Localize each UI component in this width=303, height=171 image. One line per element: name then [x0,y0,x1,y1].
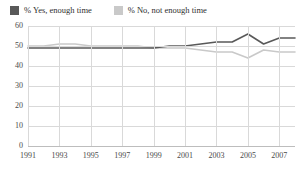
y-tick-label-0: 0 [19,142,23,150]
y-tick-label-20: 20 [15,102,23,110]
x-tick-label-1995: 1995 [83,152,99,160]
x-tick-label-2003: 2003 [208,152,224,160]
gridline-x-2007 [279,26,280,146]
gridline-y-50 [28,46,295,47]
gridline-y-10 [28,126,295,127]
gridline-x-2005 [248,26,249,146]
plot-wrapper: 0102030405060 19911993199519971999200120… [0,26,303,154]
y-tick-label-40: 40 [15,62,23,70]
legend-label-yes: % Yes, enough time [24,6,92,15]
x-tick-label-1999: 1999 [146,152,162,160]
y-axis-labels: 0102030405060 [0,26,26,150]
gridline-y-40 [28,66,295,67]
gridline-x-2003 [216,26,217,146]
x-tick-label-1993: 1993 [51,152,67,160]
legend-entry-no: % No, not enough time [114,6,207,15]
gridline-x-1991 [28,26,29,146]
chart-legend: % Yes, enough time % No, not enough time [10,3,229,17]
gridline-y-20 [28,106,295,107]
x-tick-label-1991: 1991 [20,152,36,160]
legend-label-no: % No, not enough time [128,6,207,15]
gridline-x-1999 [154,26,155,146]
gridline-y-30 [28,86,295,87]
y-tick-label-30: 30 [15,82,23,90]
x-tick-label-2005: 2005 [240,152,256,160]
x-tick-label-1997: 1997 [114,152,130,160]
y-tick-label-10: 10 [15,122,23,130]
x-axis-labels: 199119931995199719992001200320052007 [28,152,295,168]
legend-swatch-yes-icon [10,6,19,15]
x-tick-label-2007: 2007 [271,152,287,160]
legend-swatch-no-icon [114,6,123,15]
gridline-x-1997 [122,26,123,146]
gridline-y-0 [28,146,295,147]
x-tick-label-2001: 2001 [177,152,193,160]
legend-entry-yes: % Yes, enough time [10,6,92,15]
gridline-y-60 [28,26,295,27]
chart-container: % Yes, enough time % No, not enough time… [0,0,303,171]
y-tick-label-50: 50 [15,42,23,50]
gridline-x-1993 [59,26,60,146]
y-tick-label-60: 60 [15,22,23,30]
gridline-x-2001 [185,26,186,146]
plot-area [28,26,295,146]
gridline-x-1995 [91,26,92,146]
